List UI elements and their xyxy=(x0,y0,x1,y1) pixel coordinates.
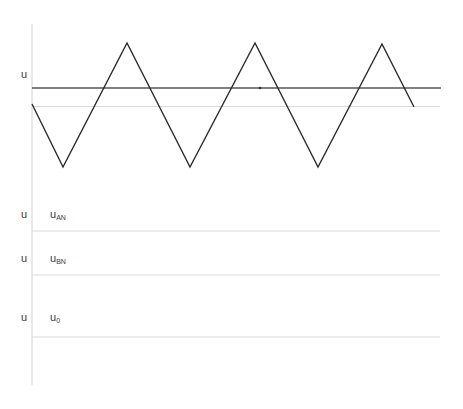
u0-signal-sub: 0 xyxy=(56,317,60,324)
uan-signal-label: uAN xyxy=(50,208,66,224)
u0-axis-label: u xyxy=(21,311,27,323)
uan-axis-label: u xyxy=(21,208,27,220)
u0-signal-label: u0 xyxy=(50,311,60,327)
uan-signal-sub: AN xyxy=(56,214,66,221)
waveform-diagram xyxy=(0,0,463,409)
ubn-signal-label: uBN xyxy=(50,252,66,268)
triangle-carrier-wave xyxy=(32,43,414,167)
carrier-axis-label: u xyxy=(21,68,27,80)
ubn-signal-sub: BN xyxy=(56,258,66,265)
marker-dot xyxy=(259,87,262,90)
ubn-axis-label: u xyxy=(21,252,27,264)
